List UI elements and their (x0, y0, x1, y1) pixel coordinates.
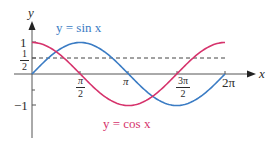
x-tick-label-3pi-half: 3π 2 (176, 76, 190, 99)
half-denominator: 2 (22, 62, 27, 72)
pi-half-numerator: π (78, 76, 83, 86)
cos-curve-label: y = cos x (103, 117, 150, 130)
half-numerator: 1 (22, 49, 27, 59)
x-tick-label-2pi: 2π (222, 76, 235, 89)
pi-half-denominator: 2 (78, 89, 83, 99)
y-tick-label-half: 1 2 (20, 49, 29, 72)
three-pi-half-denominator: 2 (181, 89, 186, 99)
x-axis-arrow-icon (247, 71, 256, 78)
x-tick-label-pi-half: π 2 (76, 76, 85, 99)
sin-curve-label: y = sin x (56, 21, 101, 34)
y-tick-label-neg1: −1 (14, 99, 28, 112)
y-axis-label: y (28, 6, 34, 19)
x-axis-label: x (259, 67, 265, 80)
three-pi-half-numerator: 3π (178, 76, 188, 86)
y-axis-arrow-icon (29, 21, 36, 30)
x-tick-label-pi: π (123, 76, 129, 87)
